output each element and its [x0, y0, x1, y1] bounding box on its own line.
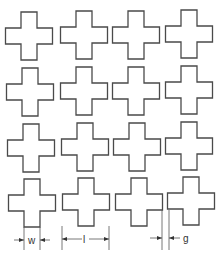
cross-patch-r2-c3: [113, 67, 160, 115]
cross-patch-r3-c2: [62, 123, 109, 171]
cross-patch-r3-c4: [166, 122, 213, 170]
cross-patch-r2-c1: [7, 68, 54, 116]
cross-patch-r4-c4: [168, 177, 215, 225]
cross-patch-r1-c2: [61, 11, 108, 59]
dimension-l: l: [62, 226, 109, 250]
cross-patch-r1-c3: [113, 11, 160, 59]
cross-array-diagram: w l g: [0, 0, 221, 258]
dimension-label-w: w: [27, 235, 36, 246]
cross-patch-r4-c3: [116, 178, 163, 226]
cross-patch-r2-c2: [61, 67, 108, 115]
cross-patch-r4-c1: [9, 179, 56, 227]
cross-patch-r3-c3: [114, 123, 161, 171]
cross-grid: [6, 10, 215, 227]
dimension-label-l: l: [83, 234, 85, 245]
cross-patch-r4-c2: [63, 178, 110, 226]
cross-patch-r1-c1: [6, 12, 53, 60]
cross-patch-r3-c1: [8, 124, 55, 172]
dimension-w: w: [14, 227, 50, 250]
cross-patch-r2-c4: [166, 66, 213, 114]
cross-patch-r1-c4: [166, 10, 213, 58]
dimension-label-g: g: [183, 233, 189, 244]
